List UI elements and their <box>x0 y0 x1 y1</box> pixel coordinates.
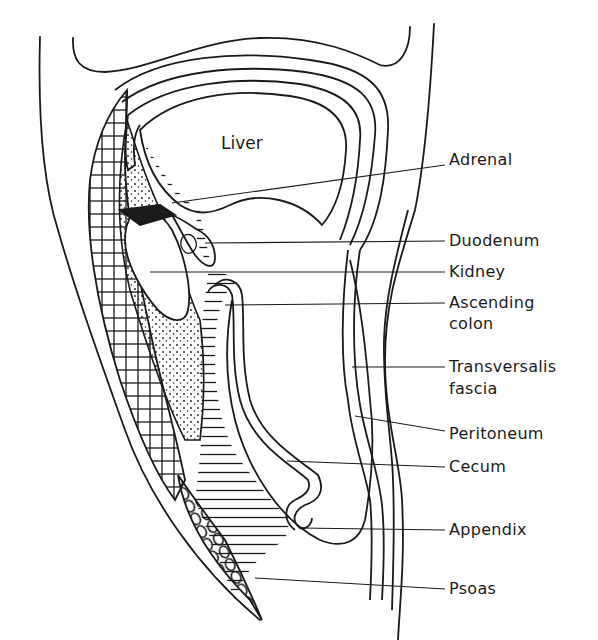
liver-inner <box>140 93 346 225</box>
leader-peritoneum <box>355 416 445 431</box>
label-adrenal: Adrenal <box>449 150 512 170</box>
label-fascia: fascia <box>449 379 498 399</box>
skin-top-curve <box>73 27 410 72</box>
label-kidney: Kidney <box>449 262 505 282</box>
leader-appendix <box>300 528 445 530</box>
leader-adrenal <box>172 165 445 203</box>
leader-cecum <box>287 461 445 467</box>
transversalis-fascia-line <box>384 210 408 610</box>
label-peritoneum: Peritoneum <box>449 424 544 444</box>
leader-psoas <box>255 578 445 589</box>
anatomical-diagram <box>0 0 598 640</box>
leader-ascending-colon <box>225 303 445 305</box>
peritoneum-line-1 <box>343 250 372 600</box>
label-transversalis: Transversalis <box>449 357 556 377</box>
liver-label: Liver <box>221 133 263 153</box>
body-outline-right <box>385 24 434 640</box>
label-duodenum: Duodenum <box>449 231 540 251</box>
label-cecum: Cecum <box>449 457 506 477</box>
label-psoas: Psoas <box>449 579 496 599</box>
label-colon: colon <box>449 314 493 334</box>
label-appendix: Appendix <box>449 520 527 540</box>
label-ascending: Ascending <box>449 293 535 313</box>
leader-duodenum <box>205 241 445 243</box>
